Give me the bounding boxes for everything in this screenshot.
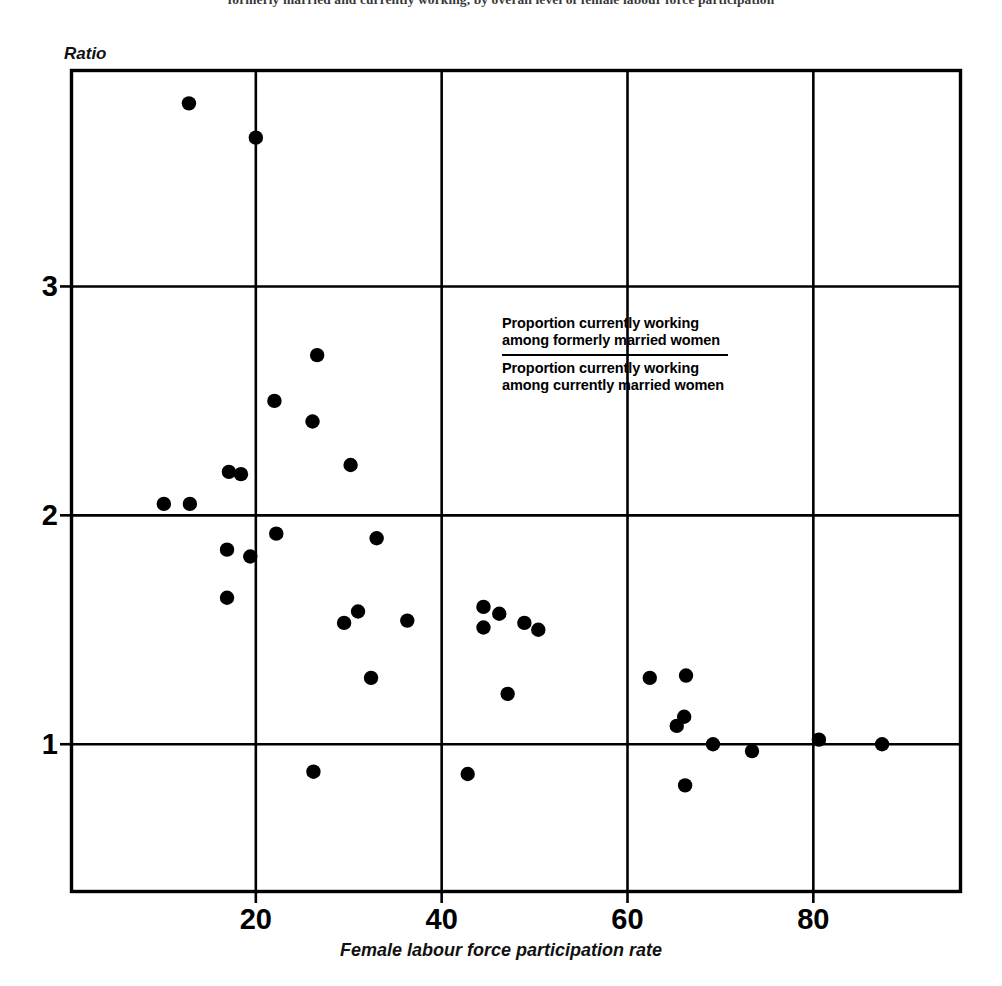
data-point — [678, 778, 692, 792]
data-point — [310, 348, 324, 362]
data-point — [222, 465, 236, 479]
x-axis-title: Female labour force participation rate — [0, 940, 1002, 961]
y-tick-label-1: 1 — [18, 728, 58, 761]
data-point — [460, 767, 474, 781]
data-point — [679, 668, 693, 682]
data-point — [337, 616, 351, 630]
data-point — [643, 671, 657, 685]
data-point — [243, 549, 257, 563]
data-point — [234, 467, 248, 481]
data-point — [517, 616, 531, 630]
data-point — [157, 497, 171, 511]
x-tick-label-60: 60 — [611, 903, 643, 936]
data-point — [220, 542, 234, 556]
legend: Proportion currently working among forme… — [502, 315, 728, 394]
data-points — [157, 96, 890, 792]
gridlines — [70, 69, 962, 893]
data-point — [812, 732, 826, 746]
data-point — [531, 623, 545, 637]
data-point — [267, 394, 281, 408]
data-point — [351, 604, 365, 618]
legend-numerator-text: Proportion currently working among forme… — [502, 315, 728, 349]
data-point — [269, 526, 283, 540]
data-point — [369, 531, 383, 545]
data-point — [476, 620, 490, 634]
plot-svg — [70, 69, 962, 893]
x-tick-label-20: 20 — [240, 903, 272, 936]
data-point — [249, 130, 263, 144]
data-point — [305, 414, 319, 428]
data-point — [343, 458, 357, 472]
plot-area — [70, 69, 962, 893]
data-point — [500, 687, 514, 701]
figure-caption-text: formerly married and currently working, … — [0, 0, 1002, 9]
data-point — [706, 737, 720, 751]
data-point — [183, 497, 197, 511]
legend-denominator-text: Proportion currently working among curre… — [502, 360, 728, 394]
scatter-plot-figure: formerly married and currently working, … — [0, 0, 1002, 986]
data-point — [220, 591, 234, 605]
data-point — [476, 600, 490, 614]
data-point — [182, 96, 196, 110]
figure-caption: formerly married and currently working, … — [0, 0, 1002, 9]
data-point — [875, 737, 889, 751]
data-point — [364, 671, 378, 685]
data-point — [745, 744, 759, 758]
y-tick-label-3: 3 — [18, 270, 58, 303]
plot-frame — [72, 71, 961, 892]
data-point — [400, 613, 414, 627]
x-tick-label-80: 80 — [797, 903, 829, 936]
legend-fraction-bar — [502, 354, 728, 356]
data-point — [306, 764, 320, 778]
data-point — [670, 719, 684, 733]
legend-numerator: Proportion currently working among forme… — [502, 315, 728, 349]
x-tick-label-40: 40 — [426, 903, 458, 936]
y-tick-label-2: 2 — [18, 499, 58, 532]
data-point — [492, 607, 506, 621]
legend-denominator: Proportion currently working among curre… — [502, 360, 728, 394]
y-axis-title: Ratio — [64, 44, 107, 64]
